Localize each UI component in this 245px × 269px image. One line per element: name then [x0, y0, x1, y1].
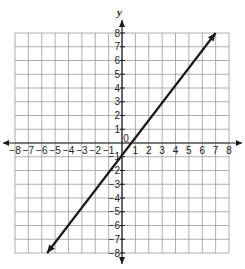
svg-text:1: 1 [133, 145, 139, 156]
svg-text:−8: −8 [9, 145, 21, 156]
svg-text:−8: −8 [109, 248, 121, 259]
coordinate-plane: −8−7−6−5−4−3−2−112345678−8−7−6−5−4−3−2−1… [0, 0, 245, 269]
svg-text:5: 5 [186, 145, 192, 156]
svg-text:−4: −4 [109, 193, 121, 204]
svg-text:1: 1 [114, 124, 120, 135]
svg-text:7: 7 [114, 41, 120, 52]
svg-text:−3: −3 [76, 145, 88, 156]
svg-text:−3: −3 [109, 179, 121, 190]
svg-text:−7: −7 [109, 234, 121, 245]
svg-text:−7: −7 [23, 145, 35, 156]
svg-text:−5: −5 [49, 145, 61, 156]
svg-text:8: 8 [114, 28, 120, 39]
svg-text:2: 2 [114, 110, 120, 121]
svg-text:−2: −2 [90, 145, 102, 156]
svg-text:8: 8 [226, 145, 232, 156]
svg-text:0: 0 [123, 133, 129, 144]
svg-text:2: 2 [146, 145, 152, 156]
y-axis-label: y [115, 6, 122, 18]
svg-text:4: 4 [114, 83, 120, 94]
svg-text:6: 6 [114, 55, 120, 66]
svg-text:6: 6 [199, 145, 205, 156]
svg-text:7: 7 [213, 145, 219, 156]
svg-text:3: 3 [114, 96, 120, 107]
svg-text:−6: −6 [36, 145, 48, 156]
svg-text:−5: −5 [109, 206, 121, 217]
svg-text:4: 4 [173, 145, 179, 156]
svg-text:3: 3 [159, 145, 165, 156]
svg-text:5: 5 [114, 69, 120, 80]
svg-text:−6: −6 [109, 220, 121, 231]
svg-text:−4: −4 [63, 145, 75, 156]
